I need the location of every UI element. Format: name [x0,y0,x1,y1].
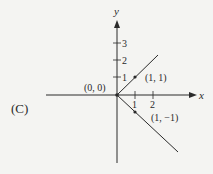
point-label-1-1: (1, 1) [145,72,167,84]
y-axis-label: y [113,5,119,17]
point-label-origin: (0, 0) [84,82,106,94]
y-tick-label-2: 2 [122,55,127,66]
point-1-1 [133,75,136,78]
ray-lower [117,95,178,152]
x-tick-label-1: 1 [132,99,137,110]
point-label-1-neg1: (1, −1) [151,112,178,124]
y-tick-label-1: 1 [122,72,127,83]
x-axis-arrow-icon [189,92,197,98]
y-axis-arrow-icon [114,20,120,28]
x-tick-label-2: 2 [150,99,155,110]
x-axis-label: x [198,89,204,101]
point-1-neg1 [133,110,136,113]
graph-canvas: y x 3 2 1 1 2 (0, 0) (1, 1) (1, −1) (C) [0,0,213,174]
y-tick-label-3: 3 [122,38,127,49]
panel-label: (C) [11,101,28,116]
point-origin [115,93,119,97]
